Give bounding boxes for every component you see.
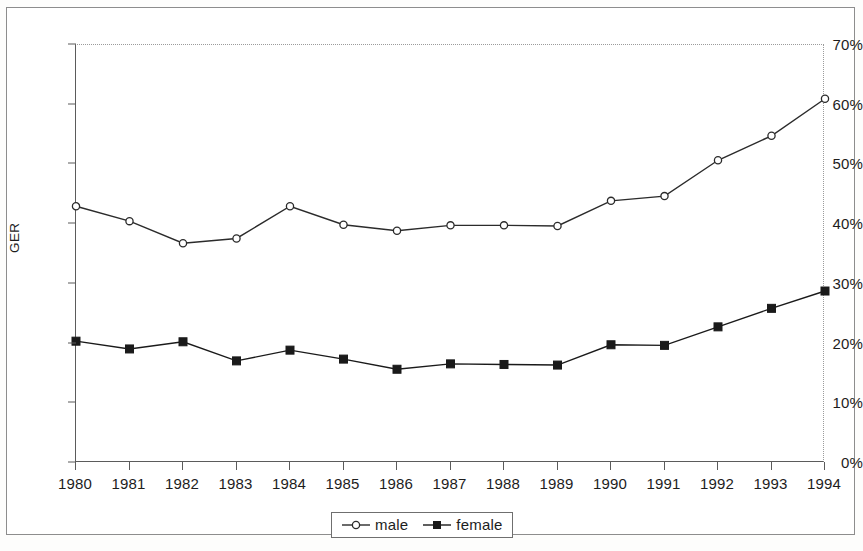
data-point <box>126 345 134 353</box>
data-point <box>768 132 775 139</box>
data-point <box>286 346 294 354</box>
data-point <box>554 222 561 229</box>
y-axis-tick-label: 20% <box>805 334 863 351</box>
x-axis-tick-mark <box>343 462 344 470</box>
y-axis-tick-mark <box>68 103 76 104</box>
y-axis-tick-label: 0% <box>805 454 863 471</box>
legend-label: female <box>456 516 502 533</box>
data-point <box>554 361 562 369</box>
data-point <box>661 341 669 349</box>
data-point <box>714 157 721 164</box>
x-axis-tick-mark <box>75 462 76 470</box>
data-point <box>233 235 240 242</box>
x-axis-tick-mark <box>717 462 718 470</box>
x-axis-tick-mark <box>824 462 825 470</box>
data-point <box>447 222 454 229</box>
y-axis-tick-mark <box>68 282 76 283</box>
data-point <box>340 221 347 228</box>
x-axis-tick-label: 1994 <box>792 475 856 492</box>
data-point <box>286 203 293 210</box>
x-axis-tick-mark <box>503 462 504 470</box>
legend-circle-marker-icon <box>341 518 371 532</box>
data-point <box>179 338 187 346</box>
data-point <box>500 222 507 229</box>
legend-label: male <box>375 516 408 533</box>
data-point <box>126 218 133 225</box>
x-axis-tick-mark <box>289 462 290 470</box>
x-axis-tick-mark <box>236 462 237 470</box>
y-axis-tick-label: 30% <box>805 274 863 291</box>
x-axis-tick-mark <box>771 462 772 470</box>
series-female <box>72 287 829 373</box>
chart-legend: malefemale <box>331 512 513 538</box>
data-point <box>714 323 722 331</box>
data-point <box>607 197 614 204</box>
y-axis-tick-mark <box>68 163 76 164</box>
y-axis-title: GER <box>7 223 22 253</box>
data-point <box>500 360 508 368</box>
x-axis-tick-mark <box>664 462 665 470</box>
x-axis-tick-mark <box>129 462 130 470</box>
legend-entry-female[interactable]: female <box>422 516 502 533</box>
x-axis-tick-mark <box>450 462 451 470</box>
chart-figure: GER malefemale 0%10%20%30%40%50%60%70%19… <box>0 0 863 551</box>
legend-entry-male[interactable]: male <box>341 516 408 533</box>
y-axis-tick-mark <box>68 223 76 224</box>
data-point <box>179 240 186 247</box>
x-axis-tick-mark <box>182 462 183 470</box>
x-axis-tick-mark <box>610 462 611 470</box>
y-axis-tick-mark <box>68 44 76 45</box>
series-male <box>72 95 828 247</box>
y-axis-tick-label: 50% <box>805 155 863 172</box>
legend-square-marker-icon <box>422 518 452 532</box>
y-axis-tick-mark <box>68 342 76 343</box>
data-point <box>607 341 615 349</box>
data-point <box>661 192 668 199</box>
x-axis-tick-mark <box>396 462 397 470</box>
data-point <box>393 365 401 373</box>
data-point <box>393 227 400 234</box>
data-point <box>768 304 776 312</box>
plot-area <box>75 44 824 462</box>
y-axis-tick-mark <box>68 402 76 403</box>
data-point <box>233 357 241 365</box>
data-point <box>447 360 455 368</box>
series-line-female <box>76 291 825 369</box>
data-point <box>72 203 79 210</box>
x-axis-tick-mark <box>557 462 558 470</box>
y-axis-tick-label: 60% <box>805 95 863 112</box>
data-point <box>340 355 348 363</box>
y-axis-tick-label: 10% <box>805 394 863 411</box>
y-axis-tick-label: 40% <box>805 215 863 232</box>
y-axis-tick-label: 70% <box>805 36 863 53</box>
chart-plot-svg <box>76 45 825 463</box>
